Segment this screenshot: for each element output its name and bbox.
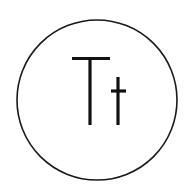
circle-outline (17, 20, 177, 180)
letter-t-glyph (111, 77, 126, 125)
text-format-icon: Tt (0, 0, 191, 190)
letter-T-glyph (72, 58, 110, 125)
text-tt-icon (0, 0, 191, 190)
